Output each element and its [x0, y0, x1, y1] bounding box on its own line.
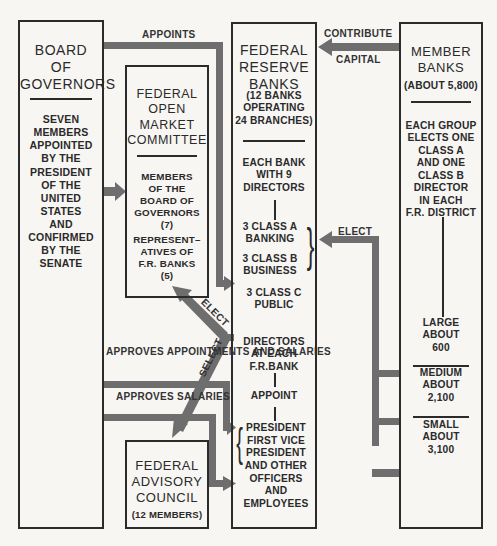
advisory-title: FEDERAL ADVISORY COUNCIL: [127, 458, 207, 506]
federal-reserve-banks-box: FEDERAL RESERVE BANKS (12 BANKS OPERATIN…: [231, 22, 317, 529]
member-divider-medium: [413, 416, 469, 418]
member-each-group: EACH GROUP ELECTS ONE CLASS A AND ONE CL…: [398, 120, 484, 220]
contribute-label: CONTRIBUTE: [324, 28, 393, 39]
approves-salaries-label: APPROVES SALARIES: [116, 391, 230, 402]
board-title: BOARD OF GOVERNORS: [20, 42, 102, 93]
member-large: LARGE ABOUT 600: [401, 317, 481, 354]
frb-connector-3: [274, 407, 276, 421]
advisory-subtitle: (12 MEMBERS): [124, 509, 210, 521]
class-ab-brace: }: [307, 222, 315, 268]
board-description: SEVEN MEMBERS APPOINTED BY THE PRESIDENT…: [20, 113, 102, 271]
federal-advisory-council-box: FEDERAL ADVISORY COUNCIL (12 MEMBERS): [125, 440, 209, 529]
frb-title: FEDERAL RESERVE BANKS: [233, 42, 315, 93]
fomc-box: FEDERAL OPEN MARKET COMMITTEE MEMBERS OF…: [125, 65, 209, 298]
fomc-divider: [137, 155, 197, 157]
appoints-label: APPOINTS: [142, 29, 196, 40]
member-subtitle: (ABOUT 5,800): [397, 80, 485, 92]
board-divider: [30, 98, 92, 100]
frb-connector-1: [274, 200, 276, 220]
frb-appoint: APPOINT: [233, 390, 315, 402]
member-title: MEMBER BANKS: [401, 44, 481, 76]
member-connector: [442, 217, 444, 317]
member-banks-box: MEMBER BANKS (ABOUT 5,800) EACH GROUP EL…: [399, 22, 483, 529]
frb-divider: [243, 140, 305, 142]
fomc-title: FEDERAL OPEN MARKET COMMITTEE: [127, 87, 207, 148]
frb-class-a: 3 CLASS A BANKING: [233, 221, 307, 246]
frb-subtitle: (12 BANKS OPERATING 24 BRANCHES): [229, 90, 319, 127]
frb-each-bank: EACH BANK WITH 9 DIRECTORS: [233, 157, 315, 194]
member-medium: MEDIUM ABOUT 2,100: [401, 367, 481, 404]
member-divider: [411, 101, 471, 103]
capital-label: CAPITAL: [336, 54, 381, 65]
frb-officers: PRESIDENT FIRST VICE PRESIDENT AND OTHER…: [237, 422, 315, 510]
approves-appointments-label: APPROVES APPOINTMENTS AND SALARIES: [106, 346, 331, 357]
fomc-representatives: REPRESENT– ATIVES OF F.R. BANKS (5): [127, 234, 207, 282]
frb-class-c: 3 CLASS C PUBLIC: [233, 287, 315, 312]
frb-connector-2: [274, 373, 276, 387]
member-small: SMALL ABOUT 3,100: [401, 419, 481, 456]
board-of-governors-box: BOARD OF GOVERNORS SEVEN MEMBERS APPOINT…: [18, 20, 104, 529]
elect-member-label: ELECT: [338, 226, 372, 237]
frb-class-b: 3 CLASS B BUSINESS: [233, 253, 307, 278]
fomc-members: MEMBERS OF THE BOARD OF GOVERNORS (7): [127, 171, 207, 231]
